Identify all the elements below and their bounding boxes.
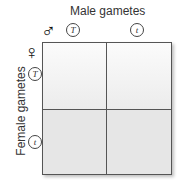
female-allele-T: T bbox=[28, 67, 42, 81]
male-allele-T: T bbox=[66, 23, 80, 37]
cell-TT bbox=[43, 43, 107, 110]
male-gametes-label: Male gametes bbox=[70, 4, 145, 18]
male-allele-t: t bbox=[130, 23, 144, 37]
female-allele-t: t bbox=[28, 135, 42, 149]
cell-tT-bottom bbox=[43, 110, 107, 174]
female-gametes-label: Female gametes bbox=[14, 66, 28, 156]
cell-tt bbox=[107, 110, 171, 174]
male-symbol-icon: ♂ bbox=[41, 20, 56, 40]
punnett-square bbox=[42, 42, 172, 175]
female-symbol-icon: ♀ bbox=[24, 42, 39, 62]
cell-Tt-top bbox=[107, 43, 171, 110]
